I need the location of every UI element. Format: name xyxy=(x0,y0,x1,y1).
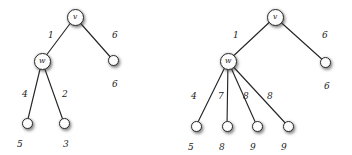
edge-weight-label: 6 xyxy=(322,31,328,40)
node-label: w xyxy=(35,54,50,69)
tree-leaf-node xyxy=(283,121,294,132)
tree-node-w: w xyxy=(220,53,237,70)
node-label: v xyxy=(68,10,83,25)
tree-leaf-node xyxy=(252,121,263,132)
tree-edge xyxy=(275,17,325,62)
leaf-value-label: 9 xyxy=(250,143,256,152)
leaf-value-label: 5 xyxy=(188,143,194,152)
edge-weight-label: 7 xyxy=(218,92,224,101)
tree-leaf-node xyxy=(222,121,233,132)
tree-leaf-node xyxy=(59,118,70,129)
leaf-value-label: 6 xyxy=(324,82,330,91)
edge-weight-label: 2 xyxy=(62,90,68,99)
leaf-value-label: 9 xyxy=(281,143,287,152)
edge-weight-label: 8 xyxy=(267,92,273,101)
edge-layer xyxy=(0,0,352,155)
edge-weight-label: 4 xyxy=(22,90,28,99)
tree-leaf-node xyxy=(191,121,202,132)
leaf-value-label: 8 xyxy=(219,143,225,152)
tree-node-v: v xyxy=(267,9,284,26)
edge-weight-label: 6 xyxy=(112,31,118,40)
node-label: w xyxy=(221,54,236,69)
edge-weight-label: 8 xyxy=(243,92,249,101)
tree-edge xyxy=(227,61,228,126)
tree-edge xyxy=(27,61,42,123)
tree-leaf-node xyxy=(320,57,331,68)
edge-weight-label: 1 xyxy=(233,31,239,40)
tree-leaf-node xyxy=(22,118,33,129)
leaf-value-label: 5 xyxy=(17,140,23,149)
node-label: v xyxy=(268,10,283,25)
edge-weight-label: 1 xyxy=(48,31,54,40)
tree-node-v: v xyxy=(67,9,84,26)
tree-leaf-node xyxy=(108,55,119,66)
tree-diagram-figure: 1642vw653164788vw65899 xyxy=(0,0,352,155)
edge-weight-label: 4 xyxy=(191,92,197,101)
tree-edge xyxy=(228,61,288,126)
leaf-value-label: 6 xyxy=(112,80,118,89)
tree-node-w: w xyxy=(34,53,51,70)
leaf-value-label: 3 xyxy=(63,140,69,149)
tree-edge xyxy=(42,61,64,123)
